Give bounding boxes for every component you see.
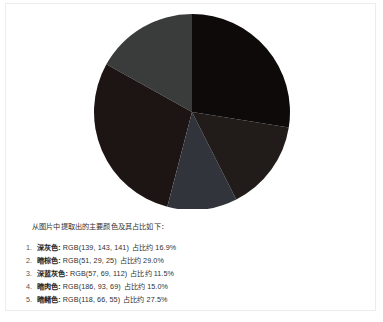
legend-item-index: 2. (26, 254, 37, 267)
legend-item-name: 深灰色: (37, 241, 61, 254)
legend-item-index: 4. (26, 280, 37, 293)
legend-item-name: 暗赭色: (37, 293, 61, 306)
pie-slice-5[interactable] (192, 14, 290, 128)
legend-item-name: 暗棕色: (37, 254, 61, 267)
legend-item-share: 占比约 27.5% (123, 293, 167, 306)
dominant-colors-pie-chart (88, 12, 293, 209)
legend-item-rgb: RGB(186, 93, 69) (63, 280, 121, 293)
list-item: 1. 深灰色: RGB(139, 143, 141) 占比约 16.9% (6, 241, 377, 254)
legend-item-index: 1. (26, 241, 37, 254)
legend-item-share: 占比约 11.5% (130, 267, 174, 280)
legend-item-index: 5. (26, 293, 37, 306)
list-item: 5. 暗赭色: RGB(118, 66, 55) 占比约 27.5% (6, 293, 377, 306)
legend-caption: 从图片中提取出的主要颜色及其占比如下： (6, 211, 377, 232)
legend-item-share: 占比约 29.0% (120, 254, 164, 267)
color-extraction-card: 从图片中提取出的主要颜色及其占比如下： 1. 深灰色: RGB(139, 143… (5, 3, 376, 311)
legend-item-name: 深蓝灰色: (37, 267, 68, 280)
legend-item-share: 占比约 16.9% (132, 241, 176, 254)
pie-chart-region (6, 4, 377, 209)
legend-item-rgb: RGB(139, 143, 141) (63, 241, 129, 254)
color-legend-list: 1. 深灰色: RGB(139, 143, 141) 占比约 16.9% 2. … (6, 232, 377, 306)
list-item: 4. 暗肉色: RGB(186, 93, 69) 占比约 15.0% (6, 280, 377, 293)
legend-item-rgb: RGB(57, 69, 112) (70, 267, 127, 280)
legend-item-name: 暗肉色: (37, 280, 61, 293)
list-item: 2. 暗棕色: RGB(51, 29, 25) 占比约 29.0% (6, 254, 377, 267)
legend-item-share: 占比约 15.0% (124, 280, 168, 293)
list-item: 3. 深蓝灰色: RGB(57, 69, 112) 占比约 11.5% (6, 267, 377, 280)
legend-item-index: 3. (26, 267, 37, 280)
legend-item-rgb: RGB(118, 66, 55) (63, 293, 120, 306)
legend-item-rgb: RGB(51, 29, 25) (63, 254, 117, 267)
pie-slices (94, 14, 290, 209)
legend-region: 从图片中提取出的主要颜色及其占比如下： 1. 深灰色: RGB(139, 143… (6, 211, 377, 306)
